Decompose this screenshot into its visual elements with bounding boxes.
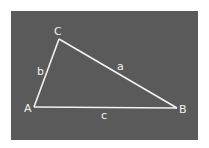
vertex-label-b: B	[179, 103, 187, 116]
triangle-diagram: A B C a b c	[0, 0, 209, 148]
side-label-c: c	[101, 109, 107, 122]
vertex-label-c: C	[54, 25, 62, 38]
side-label-b: b	[37, 65, 44, 78]
side-label-a: a	[117, 60, 124, 73]
vertex-label-a: A	[24, 102, 32, 115]
side-c-line	[34, 107, 177, 108]
